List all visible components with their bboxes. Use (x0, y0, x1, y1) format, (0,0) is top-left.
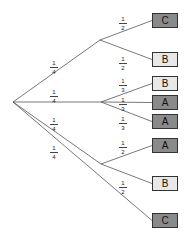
outcome-box-b: B (152, 176, 178, 191)
branch-probability: 14 (50, 60, 58, 75)
branch-probability: 14 (50, 89, 58, 104)
denominator: 2 (119, 188, 127, 195)
numerator: 1 (119, 16, 127, 24)
denominator: 2 (119, 148, 127, 155)
branch-line (13, 102, 152, 221)
outcome-box-c: C (152, 213, 178, 228)
leaf-probability: 13 (119, 78, 127, 93)
denominator: 4 (50, 68, 58, 75)
denominator: 3 (119, 105, 127, 112)
leaf-probability: 12 (119, 16, 127, 31)
outcome-box-c: C (152, 13, 178, 28)
denominator: 2 (119, 64, 127, 71)
leaf-probability: 12 (119, 140, 127, 155)
numerator: 1 (50, 117, 58, 125)
numerator: 1 (119, 78, 127, 86)
numerator: 1 (119, 140, 127, 148)
denominator: 3 (119, 124, 127, 131)
outcome-box-a: A (152, 114, 178, 129)
branch-probability: 14 (50, 117, 58, 132)
denominator: 4 (50, 97, 58, 104)
numerator: 1 (50, 145, 58, 153)
branch-probability: 14 (50, 145, 58, 160)
leaf-probability: 12 (119, 180, 127, 195)
denominator: 4 (50, 153, 58, 160)
leaf-probability: 13 (119, 97, 127, 112)
numerator: 1 (119, 56, 127, 64)
leaf-probability: 13 (119, 116, 127, 131)
denominator: 4 (50, 125, 58, 132)
leaf-probability: 12 (119, 56, 127, 71)
numerator: 1 (50, 60, 58, 68)
numerator: 1 (50, 89, 58, 97)
outcome-box-a: A (152, 95, 178, 110)
numerator: 1 (119, 97, 127, 105)
numerator: 1 (119, 180, 127, 188)
denominator: 3 (119, 86, 127, 93)
outcome-box-b: B (152, 76, 178, 91)
numerator: 1 (119, 116, 127, 124)
denominator: 2 (119, 24, 127, 31)
outcome-box-b: B (152, 52, 178, 67)
outcome-box-a: A (152, 138, 178, 153)
